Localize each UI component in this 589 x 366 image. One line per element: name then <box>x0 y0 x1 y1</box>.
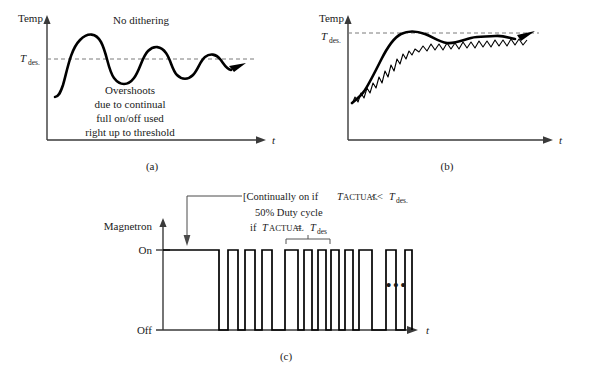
panel-a-axes <box>43 15 266 144</box>
annotation-line-3: if T ACTUAL = T des <box>250 222 327 236</box>
no-dithering-annotation: No dithering <box>113 14 169 26</box>
annotation-line-1: [Continually on if T ACTUAL << T des. <box>243 191 408 205</box>
x-axis-arrowhead <box>543 136 553 144</box>
panel-a-x-axis-label: t <box>272 134 276 146</box>
threshold-label-sub: des. <box>28 58 40 67</box>
panel-c-svg: Magnetron On Off t ••• [Continually on i… <box>90 178 510 366</box>
annotation-line-2: 50% Duty cycle <box>255 207 323 218</box>
magnetron-pulse-waveform <box>163 250 412 330</box>
annotation-line1-prefix: [Continually on if <box>243 191 319 202</box>
annotation-line3-prefix: if <box>250 222 257 233</box>
panel-c-y-axis-label: Magnetron <box>104 220 153 232</box>
annotation-line3-var: T <box>262 222 269 233</box>
annotation-line1-target: T <box>389 191 396 202</box>
panel-c-caption: (c) <box>280 350 293 363</box>
leader-arrowhead <box>184 235 191 246</box>
threshold-label-main: T <box>321 30 328 42</box>
panel-a-svg: Temp T des. t No dithering Overshoots du… <box>0 0 295 180</box>
overshoot-annotation-block: Overshoots due to continual full on/off … <box>85 84 175 138</box>
panel-c-axes <box>156 218 418 334</box>
threshold-label-sub: des. <box>329 36 341 45</box>
overshoot-line-3: full on/off used <box>96 112 164 124</box>
duty-cycle-bracket <box>286 235 330 244</box>
panel-a-y-axis-label: Temp <box>18 12 43 24</box>
panel-a-caption: (a) <box>146 160 159 173</box>
panel-c-x-axis-label: t <box>426 324 430 336</box>
annotation-line3-relation: = <box>296 222 302 233</box>
panel-c-magnetron-duty-cycle: Magnetron On Off t ••• [Continually on i… <box>90 178 510 366</box>
dither-ripple-curve <box>352 39 527 104</box>
on-level-label: On <box>139 244 153 256</box>
overshoot-line-1: Overshoots <box>105 84 155 96</box>
panel-b-threshold-label: T des. <box>321 30 341 45</box>
off-level-label: Off <box>137 324 152 336</box>
panel-a-threshold-label: T des. <box>20 52 40 67</box>
panel-b-with-dithering: Temp T des. t (b) <box>295 0 589 180</box>
panel-b-y-axis-label: Temp <box>319 12 344 24</box>
annotation-line1-target-sub: des. <box>396 196 408 205</box>
annotation-line3-target-sub: des <box>317 227 327 236</box>
y-axis-arrowhead <box>159 218 166 227</box>
panel-b-caption: (b) <box>441 160 454 173</box>
annotation-line1-relation: << <box>371 191 383 202</box>
overshoot-line-2: due to continual <box>95 98 166 110</box>
overshoot-line-4: right up to threshold <box>85 126 175 138</box>
panel-b-x-axis-label: t <box>559 134 563 146</box>
waveform-continues-ellipsis: ••• <box>386 277 408 293</box>
panel-a-no-dithering: Temp T des. t No dithering Overshoots du… <box>0 0 295 180</box>
annotation-line3-target: T <box>310 222 317 233</box>
duty-cycle-annotation: [Continually on if T ACTUAL << T des. 50… <box>243 191 408 236</box>
y-axis-arrowhead <box>344 15 351 24</box>
annotation-leader <box>184 196 242 246</box>
panel-b-svg: Temp T des. t (b) <box>295 0 589 180</box>
threshold-label-main: T <box>20 52 27 64</box>
x-axis-arrowhead <box>256 136 266 144</box>
temperature-response-curve <box>352 31 515 103</box>
y-axis-arrowhead <box>43 15 50 24</box>
